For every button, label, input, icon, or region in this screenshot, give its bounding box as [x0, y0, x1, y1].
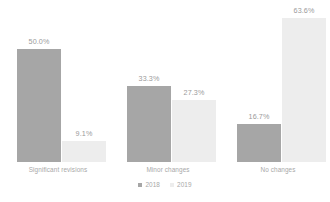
axis-tick-minor-changes: Minor changes	[108, 166, 228, 173]
legend-label-2019: 2019	[177, 182, 192, 188]
bar-chart: 50.0% 9.1% 33.3% 27.3% 16.7% 63.6%	[0, 0, 330, 202]
legend-item-2018[interactable]: 2018	[138, 182, 160, 188]
plot-area: 50.0% 9.1% 33.3% 27.3% 16.7% 63.6%	[0, 0, 330, 162]
chart-legend: 2018 2019	[0, 182, 330, 188]
axis-tick-no-changes: No changes	[218, 166, 330, 173]
bar-group-significant-revisions: 50.0% 9.1%	[0, 0, 110, 162]
bar-2018-minor-changes[interactable]	[127, 86, 171, 162]
bar-2018-no-changes[interactable]	[237, 124, 281, 162]
bar-value-2018-minor-changes: 33.3%	[119, 74, 179, 83]
bar-2019-minor-changes[interactable]	[172, 100, 216, 162]
bar-value-2018-significant-revisions: 50.0%	[9, 37, 69, 46]
legend-item-2019[interactable]: 2019	[170, 182, 192, 188]
bar-group-no-changes: 16.7% 63.6%	[220, 0, 330, 162]
bar-2018-significant-revisions[interactable]	[17, 49, 61, 162]
bar-2019-no-changes[interactable]	[282, 18, 326, 162]
axis-tick-significant-revisions: Significant revisions	[0, 166, 118, 173]
bar-value-2019-no-changes: 63.6%	[274, 6, 330, 15]
bar-value-2019-minor-changes: 27.3%	[164, 88, 224, 97]
legend-swatch-icon	[138, 183, 142, 187]
bar-value-2019-significant-revisions: 9.1%	[54, 129, 114, 138]
bar-2019-significant-revisions[interactable]	[62, 141, 106, 162]
legend-swatch-icon	[170, 183, 174, 187]
bar-group-minor-changes: 33.3% 27.3%	[110, 0, 220, 162]
bar-value-2018-no-changes: 16.7%	[229, 112, 289, 121]
legend-label-2018: 2018	[145, 182, 160, 188]
